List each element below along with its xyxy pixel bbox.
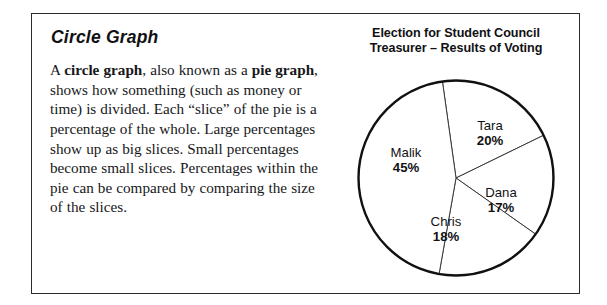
chart-column: Election for Student Council Treasurer –… bbox=[337, 26, 577, 281]
pie-label-chris: Chris 18% bbox=[417, 214, 475, 244]
pie-label-chris-name: Chris bbox=[417, 214, 475, 229]
paragraph-segment-3: pie graph bbox=[252, 61, 314, 78]
chart-title-line-1: Election for Student Council bbox=[372, 26, 540, 40]
chart-title: Election for Student Council Treasurer –… bbox=[337, 26, 575, 57]
pie-slice-malik bbox=[359, 81, 456, 274]
pie-label-tara-pct: 20% bbox=[461, 133, 519, 148]
pie-label-dana: Dana 17% bbox=[472, 185, 530, 215]
text-column: Circle Graph A circle graph, also known … bbox=[50, 28, 340, 278]
content-frame: Circle Graph A circle graph, also known … bbox=[31, 13, 580, 294]
body-paragraph: A circle graph, also known as a pie grap… bbox=[50, 60, 328, 217]
pie-label-tara-name: Tara bbox=[461, 118, 519, 133]
pie-label-malik: Malik 45% bbox=[377, 145, 435, 175]
pie-label-dana-pct: 17% bbox=[472, 200, 530, 215]
pie-label-malik-name: Malik bbox=[377, 145, 435, 160]
pie-label-malik-pct: 45% bbox=[377, 160, 435, 175]
paragraph-segment-0: A bbox=[50, 61, 64, 78]
pie-label-tara: Tara 20% bbox=[461, 118, 519, 148]
pie-label-chris-pct: 18% bbox=[417, 229, 475, 244]
paragraph-segment-1: circle graph bbox=[64, 61, 142, 78]
pie-chart: Tara 20% Dana 17% Chris 18% Malik 45% bbox=[355, 78, 565, 283]
chart-title-line-2: Treasurer – Results of Voting bbox=[370, 41, 543, 55]
paragraph-segment-4: , shows how something (such as money or … bbox=[50, 61, 318, 215]
pie-chart-svg bbox=[355, 78, 565, 283]
pie-label-dana-name: Dana bbox=[472, 185, 530, 200]
paragraph-segment-2: , also known as a bbox=[142, 61, 251, 78]
page-title: Circle Graph bbox=[51, 28, 340, 47]
